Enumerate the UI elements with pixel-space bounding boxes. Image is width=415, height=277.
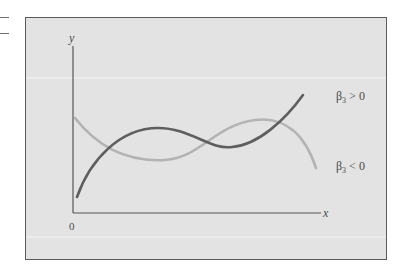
origin-label: 0 (69, 220, 75, 232)
curve-beta3-positive (77, 95, 303, 197)
label-beta3-positive: β3 > 0 (336, 89, 365, 105)
x-axis-label: x (322, 206, 329, 220)
curve-beta3-negative (75, 118, 316, 168)
y-axis-label: y (68, 31, 75, 45)
label-beta3-negative: β3 < 0 (336, 159, 365, 175)
chart-plot: y x 0 β3 > 0 β3 < 0 (0, 0, 415, 277)
